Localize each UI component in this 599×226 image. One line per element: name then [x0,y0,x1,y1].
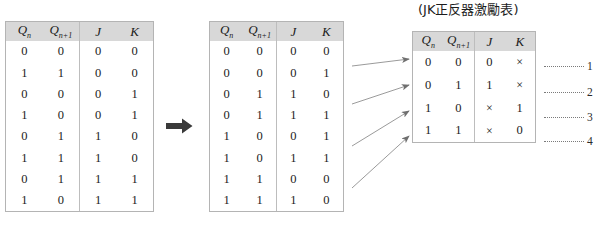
row-index-number: 1 [587,60,596,72]
row-index-label-3: 3 [544,110,596,124]
cell-k: 0 [116,147,153,168]
cell-j: 1 [277,105,310,126]
cell-k: 1 [310,105,343,126]
table-row: 0 1 1 × [413,74,535,97]
table-row: 0 0 0 0 [210,41,343,62]
table-row: 0 0 0 1 [6,84,153,105]
dotted-leader-icon [544,117,584,118]
cell-qn1: 0 [243,62,276,83]
cell-qn1: 0 [43,84,80,105]
dotted-leader-icon [544,92,584,93]
row-index-number: 4 [587,135,596,147]
cell-j: 0 [277,41,310,62]
table-row: 0 0 0 × [413,51,535,74]
table-row: 1 0 1 1 [6,190,153,211]
cell-qn: 1 [210,190,243,211]
cell-k: 0 [116,41,153,62]
dotted-leader-icon [544,66,584,67]
cell-qn1: 1 [43,62,80,83]
cell-j: × [474,97,505,120]
cell-qn: 1 [413,97,444,120]
cell-qn: 1 [6,62,43,83]
cell-qn1: 0 [43,105,80,126]
column-header-k: K [505,32,536,51]
table-row: 0 0 0 0 [6,41,153,62]
cell-qn1: 1 [43,169,80,190]
excitation-table-title: (JK正反器激勵表) [418,2,519,18]
cell-k: 1 [310,62,343,83]
cell-qn: 1 [210,147,243,168]
row-index-label-2: 2 [544,85,596,99]
table-row: 0 1 1 1 [6,169,153,190]
cell-qn: 0 [413,74,444,97]
cell-k: 1 [116,105,153,126]
cell-qn1: 0 [444,97,475,120]
cell-qn1: 0 [444,51,475,74]
cell-qn1: 1 [243,190,276,211]
mapping-arrow-4 [352,136,409,188]
cell-k: 1 [116,84,153,105]
cell-k: 0 [116,126,153,147]
cell-qn: 0 [6,126,43,147]
cell-j: × [474,119,505,142]
cell-k: 1 [116,190,153,211]
cell-qn: 0 [210,105,243,126]
column-header-j: J [474,32,505,51]
cell-j: 1 [474,74,505,97]
column-header-k: K [310,22,343,41]
cell-qn: 0 [210,62,243,83]
table-row: 0 1 1 1 [210,105,343,126]
cell-qn: 1 [210,169,243,190]
table-row: 1 0 1 1 [210,147,343,168]
column-header-qn1: Qn+1 [444,32,475,51]
cell-qn1: 0 [243,41,276,62]
cell-qn1: 1 [243,169,276,190]
table-header-row: Qn Qn+1 J K [210,22,343,41]
cell-qn1: 1 [444,74,475,97]
table-row: 1 1 × 0 [413,119,535,142]
dotted-leader-icon [544,141,584,142]
cell-j: 1 [277,147,310,168]
table-jk-excitation: Qn Qn+1 J K 0 0 0 × 0 1 1 × [412,31,536,143]
row-index-number: 2 [587,86,596,98]
cell-qn: 0 [210,84,243,105]
table-row: 0 1 1 0 [6,126,153,147]
cell-qn: 0 [210,41,243,62]
column-header-qn: Qn [6,22,43,41]
cell-qn1: 1 [243,84,276,105]
cell-qn1: 0 [43,41,80,62]
column-header-qn: Qn [210,22,243,41]
cell-qn: 1 [6,190,43,211]
cell-qn: 1 [210,126,243,147]
table-row: 1 0 0 1 [210,126,343,147]
cell-j: 1 [277,190,310,211]
cell-qn1: 1 [243,105,276,126]
cell-k: × [505,51,536,74]
cell-j: 1 [80,190,117,211]
cell-j: 1 [277,84,310,105]
table-row: 0 0 0 1 [210,62,343,83]
column-header-qn: Qn [413,32,444,51]
cell-j: 0 [277,62,310,83]
cell-qn: 1 [6,105,43,126]
table-row: 0 1 1 0 [210,84,343,105]
cell-j: 0 [80,84,117,105]
cell-j: 0 [474,51,505,74]
table-row: 1 1 0 0 [6,62,153,83]
cell-k: 0 [116,62,153,83]
table-row: 1 0 × 1 [413,97,535,120]
cell-qn1: 1 [444,119,475,142]
right-block-arrow-icon [166,118,193,134]
column-header-j: J [80,22,117,41]
cell-j: 0 [80,105,117,126]
cell-qn: 0 [6,41,43,62]
column-header-qn1: Qn+1 [243,22,276,41]
cell-qn: 0 [6,169,43,190]
table-row: 1 1 0 0 [210,169,343,190]
cell-j: 0 [80,41,117,62]
cell-k: 1 [505,97,536,120]
cell-k: 0 [310,84,343,105]
cell-k: 1 [116,169,153,190]
column-header-k: K [116,22,153,41]
cell-k: 0 [505,119,536,142]
